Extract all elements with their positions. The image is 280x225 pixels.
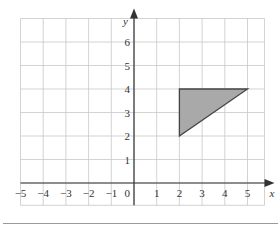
y-axis-arrow-icon bbox=[130, 9, 138, 19]
x-tick-label: 4 bbox=[222, 187, 228, 199]
x-tick-label: −3 bbox=[60, 187, 72, 199]
x-tick-label: −2 bbox=[83, 187, 95, 199]
x-tick-labels: −5−4−3−2−1012345 bbox=[15, 187, 251, 199]
x-tick-label: 2 bbox=[177, 187, 183, 199]
x-axis-arrow-icon bbox=[265, 179, 275, 187]
y-tick-label: 3 bbox=[125, 107, 131, 119]
x-tick-label: 0 bbox=[125, 187, 131, 199]
y-axis-label: y bbox=[122, 15, 128, 27]
x-axis-label: x bbox=[269, 187, 275, 199]
coordinate-grid-diagram: −5−4−3−2−1012345 123456 x y bbox=[0, 0, 280, 225]
x-tick-label: −1 bbox=[105, 187, 117, 199]
axes bbox=[21, 9, 275, 206]
x-tick-label: 5 bbox=[245, 187, 251, 199]
y-tick-label: 6 bbox=[125, 36, 131, 48]
y-tick-label: 1 bbox=[125, 154, 131, 166]
x-tick-label: 3 bbox=[199, 187, 205, 199]
grid-lines bbox=[21, 19, 265, 206]
y-tick-label: 5 bbox=[125, 60, 131, 72]
y-tick-label: 2 bbox=[125, 130, 131, 142]
x-tick-label: −4 bbox=[37, 187, 49, 199]
x-tick-label: −5 bbox=[15, 187, 27, 199]
y-tick-label: 4 bbox=[125, 83, 131, 95]
y-tick-labels: 123456 bbox=[125, 36, 131, 166]
x-tick-label: 1 bbox=[154, 187, 160, 199]
